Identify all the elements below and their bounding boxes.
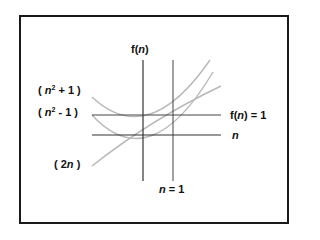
curve-n-squared-minus-1 [92, 72, 213, 138]
curve-n-squared-plus-1 [92, 60, 210, 117]
label-2n: ( 2n ) [54, 159, 80, 170]
label-f-n-equals-1: f(n) = 1 [230, 110, 266, 121]
label-n-equals-1: n = 1 [159, 184, 184, 195]
label-n-squared-minus-1: ( n2 - 1 ) [38, 107, 78, 118]
label-n-squared-plus-1: ( n2 + 1 ) [38, 85, 81, 96]
x-axis-label: n [232, 130, 239, 141]
curve-2n [92, 86, 221, 166]
y-axis-label: f(n) [131, 44, 149, 55]
